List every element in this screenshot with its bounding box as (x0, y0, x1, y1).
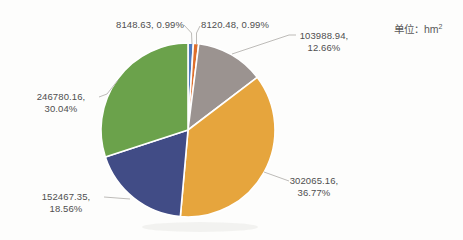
leader-line-slice-0 (184, 25, 192, 44)
slice-label-1-line1: 8120.48, 0.99% (201, 19, 281, 31)
unit-label-superscript: 2 (439, 23, 443, 30)
slice-label-2: 103988.94, 12.66% (297, 30, 351, 53)
unit-label: 单位：hm2 (394, 21, 443, 36)
slice-label-3: 302065.16, 36.77% (285, 175, 343, 198)
slice-label-3-line2: 36.77% (285, 187, 343, 199)
unit-label-text: 单位：hm (394, 23, 439, 35)
scan-shadow (142, 222, 258, 232)
slice-label-4: 152467.35, 18.56% (27, 191, 105, 214)
leader-line-slice-4 (104, 197, 130, 199)
slice-label-2-line1: 103988.94, (297, 30, 351, 42)
leader-line-slice-2 (232, 35, 296, 54)
slice-label-5-line2: 30.04% (22, 103, 100, 115)
slice-label-4-line2: 18.56% (27, 203, 105, 215)
slice-label-0: 8148.63, 0.99% (106, 19, 184, 31)
leader-line-slice-1 (197, 26, 201, 44)
slice-label-0-line1: 8148.63, 0.99% (106, 19, 184, 31)
pie-chart-figure: 8148.63, 0.99% 8120.48, 0.99% 103988.94,… (0, 0, 463, 240)
slice-label-2-line2: 12.66% (297, 42, 351, 54)
slice-label-1: 8120.48, 0.99% (201, 19, 281, 31)
slice-label-4-line1: 152467.35, (27, 191, 105, 203)
slice-label-5-line1: 246780.16, (22, 91, 100, 103)
slice-label-5: 246780.16, 30.04% (22, 91, 100, 114)
pie-slices-group (101, 43, 275, 217)
slice-label-3-line1: 302065.16, (285, 175, 343, 187)
